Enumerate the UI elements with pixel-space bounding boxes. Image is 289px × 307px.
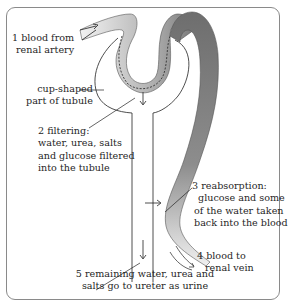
label-urine: 5 remaining water, urea and salts go to …	[70, 268, 220, 293]
label-reabsorption: 3 reabsorption: glucose and some of the …	[192, 180, 288, 229]
urine-arrow	[140, 240, 146, 259]
label-filtering: 2 filtering: water, urea, salts and gluc…	[38, 125, 135, 174]
filtering-arrow	[140, 92, 146, 105]
label-cup-shaped: cup-shaped part of tubule	[26, 83, 93, 108]
label-blood-from-artery: 1 blood from renal artery	[12, 32, 74, 57]
